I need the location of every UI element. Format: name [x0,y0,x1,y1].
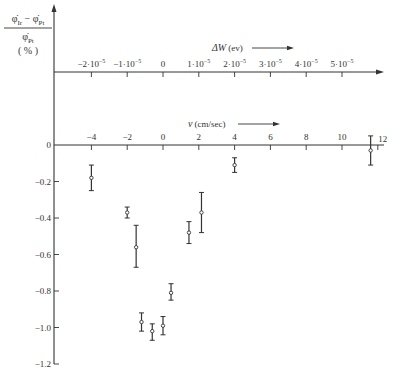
data-point [199,192,204,232]
data-point [89,165,94,191]
y-tick-label: −1.2 [35,359,51,369]
y-tick-label: −0.4 [35,213,52,223]
point-marker [161,324,164,327]
y-tick-label: −0.6 [35,250,52,260]
y-tick-label: −0.8 [35,286,52,296]
y-axis-arrow-icon [52,4,57,12]
data-point [368,136,373,165]
point-marker [169,291,172,294]
data-point [134,225,139,267]
chart: φ̇Ir − φ̇Pt φ̇Pt ( % ) 0−0.2−0.4−0.6−0.8… [0,0,400,376]
data-point [232,158,237,173]
x-tick-label: 0 [161,132,166,142]
x-axis-ticks: −4−2024681012 [87,132,388,150]
top-tick-label: −1·10−5 [113,58,141,69]
point-marker [187,231,190,234]
top-axis-arrow-icon [376,70,384,75]
y-axis-label: φ̇Ir − φ̇Pt φ̇Pt ( % ) [4,13,52,57]
data-point [139,313,144,331]
point-marker [140,320,143,323]
y-label-unit: ( % ) [18,45,38,57]
top-tick-label: 3·10−5 [259,58,282,69]
x-tick-label: 8 [304,132,309,142]
x-axis-title-text: v(cm/sec) [188,118,225,129]
top-tick-label: 2·10−5 [223,58,246,69]
y-label-denominator: φ̇Pt [22,31,34,45]
y-tick-label: −1.0 [35,323,52,333]
x-tick-label: 12 [378,134,387,144]
data-point [161,317,166,335]
top-tick-label: −2·10−5 [77,58,105,69]
x-tick-label: 6 [268,132,273,142]
point-marker [90,176,93,179]
top-axis-ticks: −2·10−5−1·10−501·10−52·10−53·10−54·10−55… [77,58,353,77]
data-point [169,284,174,300]
point-marker [126,211,129,214]
x-tick-label: 2 [197,132,202,142]
point-marker [200,211,203,214]
top-tick-label: 4·10−5 [295,58,318,69]
y-tick-label: 0 [47,140,52,150]
point-marker [233,163,236,166]
data-points [89,136,373,340]
data-point [186,222,191,244]
x-tick-label: −4 [87,132,97,142]
y-axis-ticks: 0−0.2−0.4−0.6−0.8−1.0−1.2 [35,140,59,369]
x-tick-label: −2 [122,132,132,142]
data-point [150,324,155,340]
top-axis-title-text: ΔW(ev) [211,42,243,53]
x-tick-label: 4 [232,132,237,142]
point-marker [369,149,372,152]
top-axis-title: ΔW(ev) [211,42,294,53]
top-tick-label: 1·10−5 [187,58,210,69]
x-axis-title: v(cm/sec) [188,118,280,129]
top-tick-label: 5·10−5 [331,58,354,69]
top-tick-label: 0 [161,59,166,69]
data-point [125,207,130,218]
point-marker [134,246,137,249]
x-tick-label: 10 [338,132,348,142]
y-tick-label: −0.2 [35,177,51,187]
y-label-numerator: φ̇Ir − φ̇Pt [12,13,45,27]
x-axis-title-arrow-icon [273,122,280,126]
point-marker [151,329,154,332]
top-axis-title-arrow-icon [287,46,294,50]
